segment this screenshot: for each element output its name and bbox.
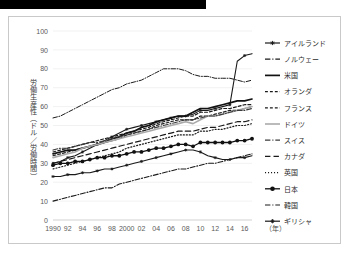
data-point [125,128,128,131]
y-tick-label: 30 [40,160,48,167]
y-tick-label: 100 [36,28,48,35]
data-point [213,141,217,145]
data-point [117,154,121,158]
data-point [206,141,210,145]
data-point [125,164,128,167]
data-point [221,141,225,145]
x-tick-label: 2000 [119,225,135,232]
data-point [52,175,55,178]
x-tick-label: 16 [241,225,249,232]
legend-item-1[interactable]: アイルランド [284,40,326,48]
legend-item-12[interactable]: ギリシャ [284,218,312,226]
x-tick-label: 1990 [45,225,61,232]
data-point [95,156,99,160]
x-tick-label: 02 [138,225,146,232]
legend-item-4[interactable]: オランダ [284,87,312,96]
data-point [199,141,203,145]
data-point [235,139,239,143]
data-point [81,171,84,174]
chart-legend: アイルランドノルウェー米国オランダフランスドイツスイスカナダ英国日本韓国ギリシャ [265,40,326,226]
legend-item-9[interactable]: 英国 [284,168,298,177]
y-tick-label: 90 [40,47,48,54]
data-point [243,139,247,143]
y-tick-label: 60 [40,103,48,110]
data-point [81,160,85,164]
y-tick-labels: 0102030405060708090100 [36,28,48,224]
legend-item-2[interactable]: ノルウェー [284,56,319,64]
y-tick-label: 50 [40,122,48,129]
data-point [88,158,92,162]
data-point [66,173,69,176]
data-point [140,150,144,154]
legend-item-11[interactable]: 韓国 [284,201,298,210]
data-point [176,143,180,147]
x-tick-label: 92 [64,225,72,232]
legend-item-5[interactable]: フランス [284,105,312,113]
data-point [228,141,232,145]
data-point [154,146,158,150]
x-tick-labels: 19909294969820000204060810121416 [45,225,248,232]
data-point [184,149,187,152]
data-point [110,167,113,170]
data-point [191,144,195,148]
y-tick-label: 40 [40,141,48,148]
legend-item-7[interactable]: スイス [284,137,305,145]
x-tick-label: 12 [211,225,219,232]
data-point [250,137,254,141]
data-point [51,163,55,167]
y-tick-label: 0 [44,217,48,224]
data-point [243,156,246,159]
series-lines [51,54,254,201]
data-point [228,158,231,161]
data-point [140,160,143,163]
x-tick-label: 06 [167,225,175,232]
data-point [147,148,151,152]
data-point [169,152,172,155]
figure-frame: 労働生産性（ドル／労働時間） 0102030405060708090100 19… [8,16,341,244]
legend-item-8[interactable]: カナダ [284,152,305,161]
legend-item-3[interactable]: 米国 [284,71,298,80]
legend-item-6[interactable]: ドイツ [284,121,305,129]
x-tick-label: 14 [226,225,234,232]
y-tick-label: 10 [40,198,48,205]
legend-marker [270,187,275,192]
data-point [125,152,129,156]
data-point [155,156,158,159]
x-tick-label: 94 [79,225,87,232]
redaction-bar [0,0,206,9]
x-tick-label: 98 [108,225,116,232]
x-tick-label: 96 [93,225,101,232]
line-chart: 0102030405060708090100 19909294969820000… [9,17,342,245]
data-point [162,146,166,150]
series-line [53,69,252,118]
data-point [132,150,136,154]
data-point [110,154,114,158]
data-point [103,156,107,160]
data-point [58,161,62,165]
x-tick-label: 04 [152,225,160,232]
legend-item-10[interactable]: 日本 [284,185,298,194]
data-point [73,160,77,164]
data-point [66,161,70,165]
x-axis-unit-label: （年） [265,224,286,233]
y-tick-label: 70 [40,84,48,91]
legend-marker [270,41,274,45]
legend-marker [270,219,274,223]
data-point [214,156,217,159]
y-tick-label: 20 [40,179,48,186]
y-tick-label: 80 [40,65,48,72]
data-point [184,143,188,147]
x-tick-label: 08 [182,225,190,232]
data-point [96,169,99,172]
x-tick-label: 10 [197,225,205,232]
data-point [169,144,173,148]
